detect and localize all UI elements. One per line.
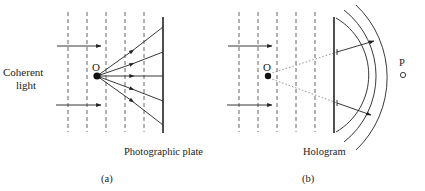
wavefronts-b [239, 12, 315, 132]
coherent-light-label-line2: light [16, 79, 36, 91]
scattered-rays-a [97, 27, 163, 125]
caption-b: (b) [302, 173, 315, 185]
object-point-a [93, 72, 100, 79]
object-point-b [265, 73, 271, 79]
coherent-light-label: Coherent [3, 66, 43, 78]
observer-label: P [399, 57, 405, 68]
photographic-plate-label: Photographic plate [124, 146, 203, 157]
reconstructed-wavefronts [336, 5, 387, 150]
object-label-b: O [263, 61, 271, 73]
panel-b: O P Hologram (b) [227, 5, 406, 185]
virtual-rays-b [269, 52, 337, 103]
panel-a: O Coherent light Photographic plate (a) [3, 12, 203, 185]
hologram-label: Hologram [303, 146, 346, 157]
wavefronts-a [68, 12, 144, 132]
observer-point [400, 72, 405, 77]
object-label-a: O [92, 61, 100, 73]
holography-diagram: O Coherent light Photographic plate (a) [0, 0, 425, 191]
caption-a: (a) [101, 173, 113, 185]
